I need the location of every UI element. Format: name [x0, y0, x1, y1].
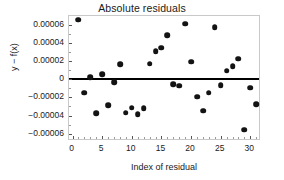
x-tick-mark-minor — [78, 137, 79, 139]
x-tick-mark-minor — [156, 137, 157, 139]
x-tick-mark-minor — [84, 137, 85, 139]
x-tick-mark — [221, 136, 222, 139]
zero-reference-line — [69, 78, 259, 80]
y-tick-label: −0.00006 — [10, 128, 64, 138]
y-tick-mark-minor — [69, 106, 71, 107]
x-tick-mark — [191, 136, 192, 139]
x-tick-mark-minor — [203, 137, 204, 139]
x-tick-mark-minor — [238, 137, 239, 139]
data-point — [129, 105, 135, 111]
x-tick-mark-minor — [138, 137, 139, 139]
x-tick-label: 15 — [145, 143, 175, 153]
y-tick-label: 0.00006 — [10, 19, 64, 29]
data-point — [153, 48, 159, 54]
data-point — [117, 62, 123, 68]
x-tick-label: 25 — [205, 143, 235, 153]
data-point — [206, 90, 212, 96]
data-point — [200, 108, 206, 114]
data-point — [182, 21, 188, 27]
data-point — [248, 85, 254, 91]
data-point — [93, 110, 99, 116]
y-tick-mark-minor — [69, 88, 71, 89]
chart-title: Absolute residuals — [0, 2, 284, 14]
x-tick-mark-minor — [108, 137, 109, 139]
x-axis-tick-labels: 051015202530 — [68, 143, 260, 157]
data-point — [147, 61, 153, 67]
x-tick-mark-minor — [173, 137, 174, 139]
x-tick-label: 10 — [116, 143, 146, 153]
x-tick-mark-minor — [215, 137, 216, 139]
x-tick-mark — [132, 136, 133, 139]
data-point — [188, 59, 194, 65]
x-tick-label: 0 — [57, 143, 87, 153]
data-point — [111, 80, 117, 86]
y-tick-mark — [69, 25, 72, 26]
x-tick-mark-minor — [144, 137, 145, 139]
x-tick-mark-minor — [244, 137, 245, 139]
plot-area — [68, 15, 260, 140]
data-point — [242, 127, 248, 133]
x-tick-mark-minor — [233, 137, 234, 139]
data-point — [170, 81, 176, 87]
y-tick-mark — [69, 116, 72, 117]
x-tick-label: 5 — [86, 143, 116, 153]
x-tick-label: 20 — [175, 143, 205, 153]
y-tick-mark — [69, 43, 72, 44]
data-point — [230, 63, 236, 69]
data-point — [135, 111, 141, 117]
data-point — [212, 24, 218, 30]
data-point — [105, 103, 111, 109]
x-tick-mark-minor — [114, 137, 115, 139]
x-tick-mark — [73, 136, 74, 139]
y-tick-label: −0.00002 — [10, 91, 64, 101]
y-tick-mark — [69, 61, 72, 62]
y-tick-label: 0.00004 — [10, 37, 64, 47]
data-point — [253, 101, 259, 107]
x-tick-mark-minor — [197, 137, 198, 139]
x-tick-label: 30 — [234, 143, 264, 153]
x-tick-mark-minor — [185, 137, 186, 139]
x-tick-mark-minor — [120, 137, 121, 139]
data-point — [218, 82, 224, 88]
y-axis-tick-labels: 0.000060.000040.000020−0.00002−0.00004−0… — [8, 15, 64, 140]
y-tick-mark — [69, 134, 72, 135]
x-tick-mark-minor — [96, 137, 97, 139]
data-point — [159, 45, 165, 51]
y-tick-label: 0.00002 — [10, 55, 64, 65]
data-point — [176, 83, 182, 89]
y-tick-mark — [69, 97, 72, 98]
x-tick-mark-minor — [167, 137, 168, 139]
x-tick-mark-minor — [227, 137, 228, 139]
y-tick-label: 0 — [10, 73, 64, 83]
data-point — [99, 72, 105, 78]
data-point — [88, 74, 94, 80]
x-tick-mark-minor — [150, 137, 151, 139]
data-point — [194, 94, 200, 100]
x-tick-mark-minor — [209, 137, 210, 139]
y-tick-mark-minor — [69, 125, 71, 126]
y-tick-mark-minor — [69, 70, 71, 71]
chart-figure: Absolute residuals y − f(x) 0.000060.000… — [0, 0, 284, 180]
x-axis-label: Index of residual — [68, 162, 260, 172]
data-point — [141, 105, 147, 111]
data-point — [224, 68, 230, 74]
y-tick-label: −0.00004 — [10, 110, 64, 120]
x-tick-mark — [161, 136, 162, 139]
y-tick-mark — [69, 79, 72, 80]
x-tick-mark-minor — [90, 137, 91, 139]
x-tick-mark-minor — [126, 137, 127, 139]
data-point — [76, 17, 82, 23]
x-tick-mark-minor — [256, 137, 257, 139]
data-point — [82, 90, 88, 96]
data-point — [236, 56, 242, 62]
x-tick-mark — [102, 136, 103, 139]
data-point — [123, 110, 129, 116]
x-tick-mark-minor — [179, 137, 180, 139]
x-tick-mark — [250, 136, 251, 139]
data-point — [165, 32, 171, 38]
y-tick-mark-minor — [69, 34, 71, 35]
y-tick-mark-minor — [69, 52, 71, 53]
